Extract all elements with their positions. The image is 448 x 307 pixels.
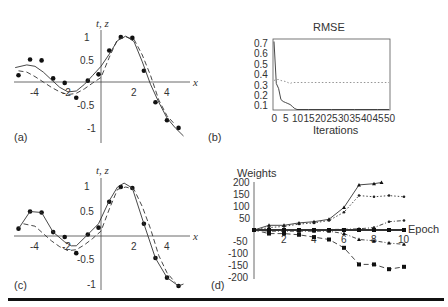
- data-point: [39, 58, 44, 63]
- svg-text:200: 200: [233, 177, 250, 188]
- data-point: [74, 95, 79, 100]
- panel-a-label: (a): [14, 131, 27, 143]
- svg-text:20: 20: [315, 113, 327, 124]
- marker: [297, 233, 301, 237]
- svg-text:-0.5: -0.5: [77, 254, 95, 265]
- svg-text:2: 2: [131, 87, 137, 98]
- svg-text:10: 10: [292, 113, 304, 124]
- svg-text:2: 2: [281, 234, 287, 245]
- svg-text:0: 0: [272, 113, 278, 124]
- svg-text:-150: -150: [228, 260, 248, 271]
- svg-text:150: 150: [233, 189, 250, 200]
- panel-b-yticks: 0.7 0.6 0.5 0.4 0.3 0.2 0.1: [254, 38, 268, 111]
- marker: [267, 232, 271, 236]
- svg-text:-4: -4: [30, 241, 39, 252]
- marker: [372, 262, 376, 266]
- panel-c-axes: [14, 178, 190, 290]
- panel-b-frame: [273, 39, 390, 110]
- marker: [358, 194, 361, 197]
- figure: t, z x 1 0.5 -0.5 -1 -4 -2 2 4 (a) RMSE …: [0, 0, 448, 307]
- svg-text:30: 30: [338, 113, 350, 124]
- data-point: [28, 57, 33, 62]
- data-point: [96, 72, 101, 77]
- panel-d-xlabel: Epoch: [408, 223, 439, 235]
- data-point: [62, 235, 67, 240]
- marker: [327, 238, 331, 242]
- svg-text:40: 40: [361, 113, 373, 124]
- panel-a-xlabel: x: [192, 76, 198, 88]
- panel-b-xticks: 05101520253035404550: [272, 113, 396, 124]
- panel-c-xticks: -4 -2 2 4: [30, 241, 170, 252]
- marker: [252, 228, 256, 232]
- marker: [372, 228, 376, 232]
- data-point: [16, 73, 21, 78]
- marker: [357, 238, 361, 242]
- marker: [403, 219, 406, 222]
- series-line: [19, 37, 176, 125]
- data-point: [62, 81, 67, 86]
- panel-c-xlabel: x: [192, 230, 198, 242]
- panel-b: RMSE Iterations 0.7 0.6 0.5 0.4 0.3 0.2 …: [208, 21, 396, 143]
- bottom-rule: [8, 298, 444, 301]
- marker: [342, 228, 346, 232]
- series-line: [15, 36, 183, 136]
- marker: [373, 195, 376, 198]
- svg-text:100: 100: [233, 201, 250, 212]
- panel-b-label: (b): [208, 131, 221, 143]
- series-line: [24, 187, 176, 283]
- panel-c-ylabel: t, z: [96, 164, 110, 176]
- svg-text:0.5: 0.5: [80, 206, 94, 217]
- marker: [402, 228, 406, 232]
- svg-text:6: 6: [341, 234, 347, 245]
- marker: [388, 194, 391, 197]
- svg-text:2: 2: [131, 241, 137, 252]
- marker: [283, 225, 286, 228]
- marker: [387, 267, 391, 271]
- svg-text:5: 5: [283, 113, 289, 124]
- svg-text:-1: -1: [87, 123, 96, 134]
- svg-text:0.1: 0.1: [254, 100, 268, 111]
- svg-text:15: 15: [304, 113, 316, 124]
- panel-a-ylabel: t, z: [96, 17, 110, 29]
- marker: [312, 235, 316, 239]
- panel-d-yticks: 200 150 100 50 -50 -100 -150 -200: [228, 177, 251, 283]
- svg-text:4: 4: [164, 241, 170, 252]
- marker: [402, 265, 406, 269]
- svg-text:-0.5: -0.5: [77, 100, 95, 111]
- marker: [380, 181, 384, 185]
- panel-d-label: (d): [211, 279, 224, 291]
- panel-a: t, z x 1 0.5 -0.5 -1 -4 -2 2 4 (a): [14, 17, 198, 143]
- series-line: [254, 183, 382, 231]
- marker: [298, 223, 301, 226]
- svg-text:-2: -2: [62, 87, 71, 98]
- data-point: [96, 225, 101, 230]
- svg-text:0.4: 0.4: [254, 69, 268, 80]
- data-point: [153, 100, 158, 105]
- marker: [403, 195, 406, 198]
- svg-text:0.6: 0.6: [254, 48, 268, 59]
- panel-c-label: (c): [14, 279, 27, 291]
- svg-text:0.5: 0.5: [80, 55, 94, 66]
- series-line: [274, 80, 389, 84]
- svg-text:-1: -1: [87, 279, 96, 290]
- svg-text:25: 25: [327, 113, 339, 124]
- marker: [357, 262, 361, 266]
- svg-text:-50: -50: [233, 236, 248, 247]
- marker: [388, 220, 391, 223]
- svg-text:-4: -4: [30, 87, 39, 98]
- svg-text:1: 1: [84, 181, 90, 192]
- marker: [342, 246, 346, 250]
- svg-text:-100: -100: [228, 248, 248, 259]
- svg-text:1: 1: [84, 32, 90, 43]
- svg-text:4: 4: [164, 87, 170, 98]
- svg-text:45: 45: [373, 113, 385, 124]
- marker: [282, 232, 286, 236]
- series-line: [274, 42, 389, 110]
- svg-text:50: 50: [384, 113, 396, 124]
- marker: [387, 228, 391, 232]
- marker: [313, 222, 316, 225]
- series-line: [254, 230, 404, 269]
- data-point: [74, 251, 79, 256]
- panel-b-xlabel: Iterations: [313, 124, 359, 136]
- marker: [328, 219, 331, 222]
